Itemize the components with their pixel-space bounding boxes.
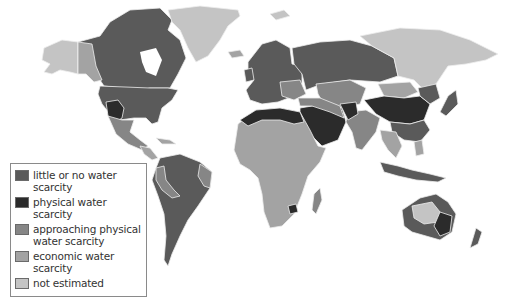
- region-caribbean: [156, 138, 176, 144]
- region-iceland: [228, 50, 244, 58]
- region-mexico: [108, 116, 148, 150]
- legend-item-little-or-no: little or no water scarcity: [15, 169, 142, 193]
- legend-label: economic water scarcity: [33, 250, 142, 274]
- swatch-economic: [15, 251, 29, 262]
- swatch-approaching: [15, 224, 29, 235]
- region-philippines: [414, 140, 424, 156]
- region-uk: [244, 68, 254, 82]
- map-legend: little or no water scarcity physical wat…: [10, 163, 147, 297]
- region-madagascar: [312, 188, 322, 214]
- region-japan: [440, 90, 458, 116]
- region-new-zealand: [470, 228, 482, 248]
- legend-label: physical water scarcity: [33, 196, 142, 220]
- legend-label: little or no water scarcity: [33, 169, 142, 193]
- legend-item-not-estimated: not estimated: [15, 277, 142, 289]
- swatch-not-estimated: [15, 278, 29, 289]
- region-alaska: [42, 40, 78, 74]
- region-indonesia: [380, 162, 446, 182]
- legend-label: approaching physical water scarcity: [33, 223, 142, 247]
- region-central-america: [140, 146, 158, 160]
- swatch-physical: [15, 197, 29, 208]
- swatch-little-or-no: [15, 170, 29, 181]
- legend-item-approaching: approaching physical water scarcity: [15, 223, 142, 247]
- legend-item-economic: economic water scarcity: [15, 250, 142, 274]
- region-southern-africa: [288, 204, 298, 214]
- region-arctic-islands: [270, 10, 290, 20]
- legend-label: not estimated: [33, 277, 104, 289]
- legend-item-physical: physical water scarcity: [15, 196, 142, 220]
